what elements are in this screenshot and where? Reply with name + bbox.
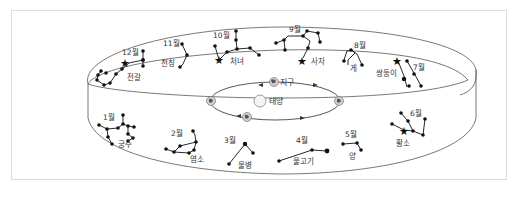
month-label-7: 7월 — [413, 62, 425, 72]
constellation-label-aries: 양 — [349, 152, 356, 161]
month-label-5: 5월 — [345, 129, 357, 139]
month-label-12: 12월 — [122, 47, 139, 57]
month-label-3: 3월 — [224, 135, 236, 145]
sun-label: 태양 — [269, 97, 284, 106]
constellation-label-virgo: 처녀 — [230, 57, 244, 66]
constellation-libra — [178, 42, 189, 69]
month-label-9: 9월 — [289, 24, 301, 34]
sun-icon — [254, 95, 266, 107]
constellation-label-pisces: 물고기 — [293, 157, 314, 166]
earth-icon — [270, 78, 279, 87]
earth-icon-bottom — [243, 113, 252, 122]
zodiac-diagram: 태양 지구 ★ 12월 전갈 11월 처녀 천칭 — [0, 0, 519, 197]
svg-text:★: ★ — [392, 55, 402, 68]
constellation-aries — [341, 141, 363, 152]
svg-text:★: ★ — [214, 54, 224, 67]
constellation-label-gemini: 쌍둥이 — [376, 68, 397, 78]
month-label-8: 8월 — [354, 40, 366, 50]
month-label-2: 2월 — [171, 128, 183, 138]
svg-text:★: ★ — [120, 57, 130, 70]
earth-icon-right — [335, 97, 344, 106]
svg-text:★: ★ — [399, 125, 409, 138]
constellation-label-leo: 사자 — [311, 57, 325, 66]
earth-label: 지구 — [280, 78, 294, 87]
month-label-1: 1월 — [103, 112, 115, 122]
constellation-label-taurus: 황소 — [396, 138, 410, 148]
constellation-label-scorpius: 전갈 — [127, 72, 141, 82]
svg-text:★: ★ — [297, 55, 307, 68]
constellation-label-cancer: 게 — [350, 63, 357, 73]
month-label-6: 6월 — [410, 108, 422, 118]
constellation-label-sagittarius: 궁수 — [118, 140, 132, 149]
month-label-10: 10월 — [213, 30, 230, 40]
month-label-11: 11월 — [163, 38, 180, 48]
constellation-label-libra-text: 천칭 — [161, 58, 175, 68]
constellation-label-aquarius: 물병 — [238, 161, 252, 170]
earth-icon-left — [207, 97, 216, 106]
month-label-4: 4월 — [296, 135, 308, 145]
constellation-label-capricornus: 염소 — [190, 155, 204, 164]
